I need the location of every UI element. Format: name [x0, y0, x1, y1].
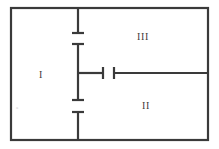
- region-label-ii: II: [142, 101, 150, 111]
- partition-lines-group: [72, 9, 207, 139]
- corner-mark-label: a: [16, 105, 18, 110]
- region-label-iii: III: [137, 32, 149, 42]
- figure-container: I II III a: [0, 0, 219, 149]
- region-label-i: I: [39, 70, 43, 80]
- line-diagram: [0, 0, 219, 149]
